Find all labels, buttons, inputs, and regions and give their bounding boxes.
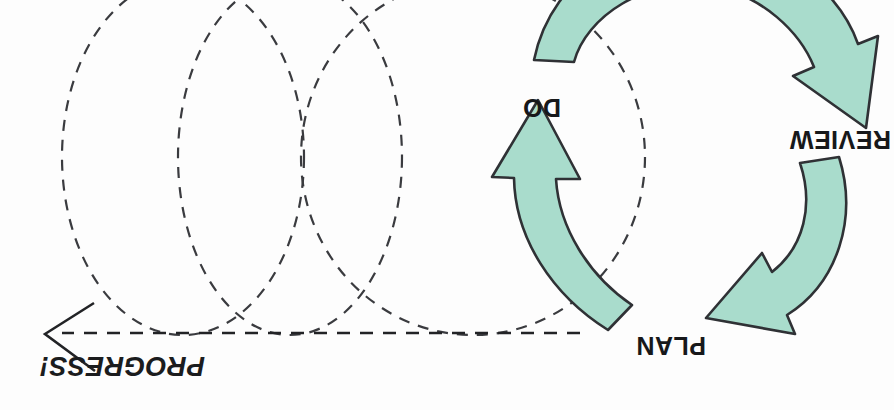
arrow-to-do xyxy=(492,100,632,330)
progress-label: PROGRESS! xyxy=(39,351,205,381)
arrow-to-plan xyxy=(706,157,846,334)
arrow-to-plan-shape xyxy=(706,157,846,334)
label-review-group: REVIEW xyxy=(789,126,891,154)
cycle-label-plan: PLAN xyxy=(636,332,706,360)
improvement-cycle-diagram: PROGRESS! DO REVIEW PLAN xyxy=(0,0,894,410)
arrow-to-do-shape xyxy=(492,100,632,330)
progress-label-group: PROGRESS! xyxy=(39,351,205,381)
diagram-canvas: PROGRESS! DO REVIEW PLAN xyxy=(0,0,894,410)
label-do-group: DO xyxy=(523,94,562,122)
arrow-to-review xyxy=(534,0,878,128)
cycle-label-do: DO xyxy=(523,94,562,122)
dashed-loop-1 xyxy=(62,0,304,335)
arrow-to-review-shape xyxy=(534,0,878,128)
cycle-label-review: REVIEW xyxy=(789,126,891,154)
label-plan-group: PLAN xyxy=(636,332,706,360)
dashed-loop-2 xyxy=(178,0,402,335)
